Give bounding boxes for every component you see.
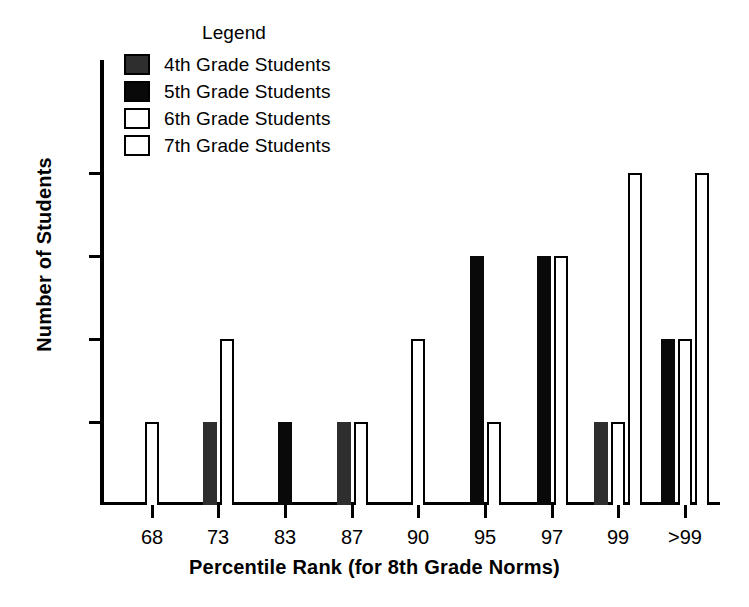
bar <box>661 339 675 505</box>
plot-area: 01234 6873838790959799>99 <box>100 60 720 505</box>
x-tick-label: >99 <box>650 526 720 549</box>
bar <box>278 422 292 505</box>
bar <box>203 422 217 505</box>
bar <box>537 256 551 505</box>
bar <box>678 339 692 505</box>
x-tick-label: 73 <box>183 526 253 549</box>
y-axis-title: Number of Students <box>33 95 56 415</box>
x-tick-label: 68 <box>117 526 187 549</box>
bar <box>695 173 709 505</box>
x-axis-title: Percentile Rank (for 8th Grade Norms) <box>0 556 749 579</box>
x-tick-mark <box>351 505 354 518</box>
y-tick-mark <box>89 172 100 175</box>
x-tick-mark <box>151 505 154 518</box>
y-axis-line <box>100 60 104 505</box>
x-tick-mark <box>417 505 420 518</box>
x-tick-mark <box>617 505 620 518</box>
legend-title: Legend <box>124 22 424 44</box>
x-tick-label: 90 <box>383 526 453 549</box>
bar <box>487 422 501 505</box>
x-axis-line <box>100 502 720 506</box>
x-tick-label: 83 <box>250 526 320 549</box>
bar <box>337 422 351 505</box>
x-tick-label: 99 <box>583 526 653 549</box>
bar <box>220 339 234 505</box>
bar <box>594 422 608 505</box>
x-tick-mark <box>484 505 487 518</box>
x-tick-mark <box>217 505 220 518</box>
y-tick-mark <box>89 338 100 341</box>
y-tick-mark <box>89 255 100 258</box>
bar-chart-figure: Legend 4th Grade Students5th Grade Stude… <box>0 0 749 607</box>
bar <box>554 256 568 505</box>
x-tick-label: 97 <box>517 526 587 549</box>
x-tick-label: 95 <box>450 526 520 549</box>
x-tick-mark <box>551 505 554 518</box>
y-tick-mark <box>89 421 100 424</box>
x-tick-mark <box>684 505 687 518</box>
bar <box>411 339 425 505</box>
bar <box>470 256 484 505</box>
x-tick-mark <box>284 505 287 518</box>
bar <box>628 173 642 505</box>
bar <box>145 422 159 505</box>
bar <box>611 422 625 505</box>
x-tick-label: 87 <box>317 526 387 549</box>
bar <box>354 422 368 505</box>
